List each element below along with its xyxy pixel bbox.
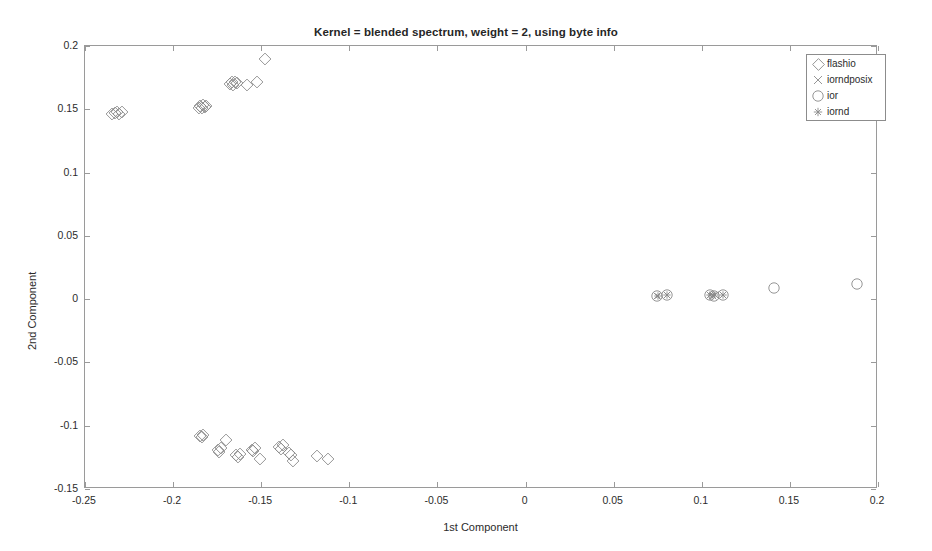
y-tick-label: 0.2 — [40, 39, 78, 51]
legend-entry-iorndposix[interactable]: iorndposix — [809, 72, 873, 88]
data-point-flashio — [227, 78, 240, 91]
y-tick-mark — [85, 362, 90, 363]
legend-entry-flashio[interactable]: flashio — [809, 56, 856, 72]
y-tick-mark — [85, 173, 90, 174]
x-tick-label: 0 — [522, 494, 528, 506]
x-tick-mark — [878, 46, 879, 51]
data-point-flashio — [223, 77, 236, 90]
x-tick-mark — [702, 46, 703, 51]
y-tick-mark — [85, 109, 90, 110]
data-point-iornd — [709, 291, 718, 300]
data-point-flashio — [106, 107, 119, 120]
data-point-flashio — [108, 107, 121, 120]
data-point-iornd — [654, 291, 663, 300]
plot-area — [84, 45, 877, 488]
x-tick-mark — [437, 482, 438, 487]
data-point-flashio — [111, 106, 124, 119]
y-tick-label: -0.15 — [40, 482, 78, 494]
y-tick-mark — [871, 426, 876, 427]
x-tick-label: -0.15 — [248, 494, 272, 506]
data-point-ior — [768, 282, 780, 294]
data-point-flashio — [321, 452, 334, 465]
legend-entry-ior[interactable]: ior — [809, 88, 838, 104]
y-tick-label: 0.15 — [40, 102, 78, 114]
data-point-flashio — [249, 441, 262, 454]
data-point-flashio — [195, 102, 208, 115]
data-point-flashio — [233, 447, 246, 460]
x-tick-label: 0.2 — [870, 494, 885, 506]
data-point-ior — [708, 290, 720, 302]
data-point-flashio — [213, 445, 226, 458]
x-axis-label: 1st Component — [84, 521, 877, 533]
y-tick-mark — [871, 299, 876, 300]
data-point-flashio — [253, 452, 266, 465]
legend-entry-iornd[interactable]: iornd — [809, 104, 849, 120]
data-point-ior — [704, 289, 716, 301]
x-tick-mark — [614, 482, 615, 487]
data-point-flashio — [274, 442, 287, 455]
data-point-iorndposix — [706, 291, 715, 300]
y-tick-mark — [871, 489, 876, 490]
data-point-flashio — [194, 100, 207, 113]
data-point-flashio — [215, 442, 228, 455]
y-tick-label: 0 — [40, 292, 78, 304]
x-tick-label: -0.2 — [163, 494, 181, 506]
data-point-flashio — [259, 52, 272, 65]
data-point-flashio — [195, 431, 208, 444]
data-point-flashio — [247, 445, 260, 458]
circle-icon — [809, 89, 827, 103]
data-point-flashio — [225, 76, 238, 89]
data-point-flashio — [198, 101, 211, 114]
y-tick-label: 0.1 — [40, 166, 78, 178]
data-point-iorndposix — [652, 291, 661, 300]
data-point-flashio — [113, 108, 126, 121]
x-tick-mark — [349, 482, 350, 487]
y-tick-mark — [85, 489, 90, 490]
x-tick-mark — [85, 482, 86, 487]
y-tick-label: -0.05 — [40, 355, 78, 367]
y-tick-mark — [871, 173, 876, 174]
data-point-flashio — [231, 450, 244, 463]
data-point-ior — [661, 289, 673, 301]
x-tick-label: 0.1 — [693, 494, 708, 506]
x-tick-mark — [790, 46, 791, 51]
legend-label: iornd — [827, 107, 849, 117]
y-tick-mark — [85, 426, 90, 427]
data-point-flashio — [276, 439, 289, 452]
diamond-icon — [809, 57, 827, 71]
cross-icon — [809, 73, 827, 87]
data-point-flashio — [245, 443, 258, 456]
data-point-iornd — [718, 291, 727, 300]
data-point-flashio — [287, 454, 300, 467]
data-point-iorndposix — [662, 291, 671, 300]
x-tick-mark — [702, 482, 703, 487]
data-point-iorndposix — [718, 291, 727, 300]
data-point-flashio — [230, 449, 243, 462]
data-point-ior — [717, 289, 729, 301]
x-tick-mark — [526, 46, 527, 51]
data-point-flashio — [115, 105, 128, 118]
x-tick-label: -0.25 — [72, 494, 96, 506]
y-axis-label: 2nd Component — [26, 272, 38, 350]
chart-legend[interactable]: flashioiorndposixioriornd — [806, 54, 886, 121]
x-tick-mark — [614, 46, 615, 51]
data-point-flashio — [251, 75, 264, 88]
legend-label: ior — [827, 91, 838, 101]
chart-title: Kernel = blended spectrum, weight = 2, u… — [0, 26, 932, 38]
data-point-flashio — [241, 79, 254, 92]
legend-label: flashio — [827, 59, 856, 69]
data-point-iornd — [663, 291, 672, 300]
data-point-flashio — [229, 75, 242, 88]
y-tick-mark — [871, 362, 876, 363]
data-point-iorndposix — [710, 290, 719, 299]
x-tick-label: -0.05 — [424, 494, 448, 506]
y-tick-mark — [85, 299, 90, 300]
legend-label: iorndposix — [827, 75, 873, 85]
data-point-flashio — [219, 433, 232, 446]
data-point-flashio — [230, 77, 243, 90]
data-point-flashio — [284, 448, 297, 461]
x-tick-mark — [349, 46, 350, 51]
x-tick-mark — [173, 482, 174, 487]
x-tick-label: -0.1 — [339, 494, 357, 506]
x-tick-mark — [790, 482, 791, 487]
